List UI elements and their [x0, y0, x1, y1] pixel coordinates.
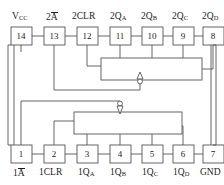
pin-label-1qa-text: Q [83, 167, 90, 177]
pin-label-1clr: 1CLR [39, 168, 62, 178]
pin-label-1a: 1A [13, 168, 25, 179]
pin-label-1qd-sub: D [185, 170, 190, 177]
pin-label-gnd-text: GND [200, 167, 221, 177]
pin-label-2qc-sub: C [184, 14, 188, 21]
pin-number-14: 14 [11, 32, 31, 41]
pin-label-1qb-text: Q [115, 167, 122, 177]
pin-label-2qa: 2QA [110, 12, 126, 22]
pin-number-12: 12 [77, 32, 97, 41]
ic-pinout-diagram: 14 13 12 11 10 9 8 1 2 3 4 5 6 7 VCC 2A … [0, 0, 224, 185]
upper-counter-block [54, 52, 213, 90]
pin-label-2qd-sub: D [214, 14, 219, 21]
pin-label-1qc-text: Q [147, 167, 154, 177]
pin-number-9: 9 [173, 32, 193, 41]
pin-number-3: 3 [77, 150, 97, 159]
pin-number-8: 8 [203, 32, 223, 41]
pin-label-2qb: 2QB [141, 12, 157, 22]
pin-label-vcc-text: V [12, 11, 19, 21]
pin-label-1qd-text: Q [178, 167, 185, 177]
pin-label-vcc-sub: CC [19, 14, 28, 21]
pin-label-2qc-text: Q [177, 11, 184, 21]
pin-label-2a: 2A [46, 12, 58, 23]
pin-number-1: 1 [11, 150, 31, 159]
pin-label-vcc: VCC [12, 12, 28, 22]
pin-number-13: 13 [44, 32, 64, 41]
pin-label-2qb-sub: B [153, 14, 157, 21]
pin-number-11: 11 [110, 32, 130, 41]
pin-label-2qa-text: Q [115, 11, 122, 21]
pin-label-2qb-text: Q [146, 11, 153, 21]
lower-counter-block [21, 101, 183, 138]
pin-label-1qb-sub: B [122, 170, 126, 177]
pin-label-2qc: 2QC [172, 12, 188, 22]
pin-label-2qd: 2QD [202, 12, 218, 22]
pin-label-1qb: 1QB [110, 168, 126, 178]
pin-number-7: 7 [203, 150, 223, 159]
pin-number-6: 6 [173, 150, 193, 159]
pin-label-1qa: 1QA [78, 168, 94, 178]
pin-label-2qa-sub: A [122, 14, 127, 21]
pin-number-4: 4 [110, 150, 130, 159]
pin-number-5: 5 [142, 150, 162, 159]
pin-label-2clr-text: CLR [77, 11, 95, 21]
pin-label-1a-text: A [18, 168, 25, 179]
pin-label-2qd-text: Q [207, 11, 214, 21]
pin-label-1qa-sub: A [90, 170, 95, 177]
pin-label-1qc-sub: C [154, 170, 158, 177]
pin-label-gnd: GND [200, 168, 221, 178]
pin-number-10: 10 [142, 32, 162, 41]
pin-label-2clr: 2CLR [72, 12, 95, 22]
pin-label-2a-text: A [51, 12, 58, 23]
pin-label-1qd: 1QD [173, 168, 189, 178]
pin-label-1qc: 1QC [142, 168, 158, 178]
pin-label-1clr-text: CLR [44, 167, 62, 177]
pin-number-2: 2 [44, 150, 64, 159]
